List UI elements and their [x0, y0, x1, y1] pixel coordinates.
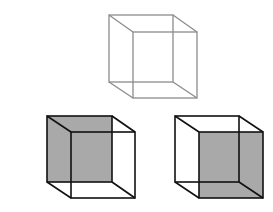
- necker-cube-diagram: Ambiguous wireframe cubeCube viewed with…: [0, 0, 273, 212]
- shaded-front-face: [199, 132, 263, 198]
- shaded-back-face: [47, 116, 112, 182]
